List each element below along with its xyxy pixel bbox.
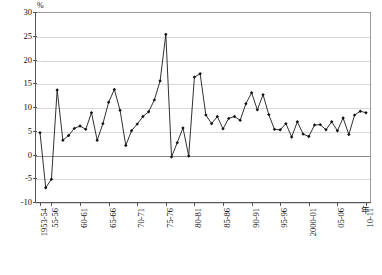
- data-point-marker: [95, 139, 98, 142]
- data-point-marker: [261, 93, 264, 96]
- data-point-marker: [307, 135, 310, 138]
- data-point-marker: [113, 88, 116, 91]
- data-point-marker: [296, 120, 299, 123]
- data-point-marker: [273, 128, 276, 131]
- data-series: [0, 0, 382, 275]
- data-point-marker: [153, 98, 156, 101]
- data-point-marker: [107, 101, 110, 104]
- data-point-marker: [244, 102, 247, 105]
- data-point-marker: [158, 79, 161, 82]
- data-point-marker: [118, 109, 121, 112]
- data-point-marker: [187, 154, 190, 157]
- data-point-marker: [290, 135, 293, 138]
- data-point-marker: [301, 132, 304, 135]
- data-point-marker: [170, 155, 173, 158]
- chart-container: 302520151050-5-10 % 1953-5455-5660-6165-…: [0, 0, 382, 275]
- data-point-marker: [341, 116, 344, 119]
- data-point-marker: [227, 117, 230, 120]
- data-point-marker: [347, 133, 350, 136]
- data-point-marker: [267, 113, 270, 116]
- data-point-marker: [101, 122, 104, 125]
- data-point-marker: [221, 127, 224, 130]
- data-point-marker: [124, 144, 127, 147]
- data-point-marker: [250, 91, 253, 94]
- data-point-marker: [90, 111, 93, 114]
- data-point-marker: [313, 123, 316, 126]
- data-point-marker: [176, 141, 179, 144]
- data-point-marker: [55, 88, 58, 91]
- data-point-marker: [181, 126, 184, 129]
- data-point-marker: [38, 131, 41, 134]
- data-point-marker: [164, 33, 167, 36]
- series-line: [40, 34, 366, 187]
- data-point-marker: [364, 111, 367, 114]
- data-point-marker: [256, 108, 259, 111]
